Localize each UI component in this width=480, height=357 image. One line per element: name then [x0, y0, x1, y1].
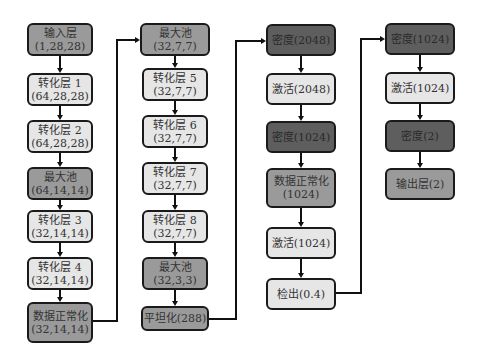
node-conv-5: 转化层 5 (32,7,7) [142, 68, 208, 101]
node-shape: (64,28,28) [31, 90, 89, 103]
node-shape: (32,7,7) [153, 179, 197, 192]
node-label: 转化层 4 [38, 261, 82, 274]
arrow-down-icon [298, 68, 304, 73]
edge [59, 106, 61, 115]
edge [300, 105, 302, 116]
edge [174, 101, 176, 110]
node-conv-1: 转化层 1 (64,28,28) [27, 73, 93, 106]
node-label: 转化层 8 [153, 214, 197, 227]
arrow-down-icon [417, 163, 423, 168]
arrow-down-icon [298, 116, 304, 121]
node-activation-2048: 激活(2048) [266, 73, 336, 105]
edge [419, 104, 421, 115]
arrow-down-icon [57, 252, 63, 257]
edge [360, 38, 362, 294]
arrow-down-icon [57, 205, 63, 210]
arrow-down-icon [172, 301, 178, 306]
edge [59, 153, 61, 162]
node-label: 密度(2) [401, 130, 439, 143]
node-shape: (1024) [283, 188, 320, 201]
node-shape: (32,7,7) [153, 40, 197, 53]
node-label: 转化层 2 [38, 124, 82, 137]
node-conv-3: 转化层 3 (32,14,14) [27, 210, 93, 243]
arrow-down-icon [298, 273, 304, 278]
node-label: 数据正常化 [274, 175, 329, 188]
edge [93, 320, 118, 322]
node-label: 转化层 7 [153, 166, 197, 179]
edge [300, 259, 302, 273]
node-label: 输出层(2) [396, 178, 445, 191]
edge [300, 56, 302, 68]
node-shape: (32,7,7) [153, 85, 197, 98]
node-shape: (32,7,7) [153, 227, 197, 240]
node-conv-4: 转化层 4 (32,14,14) [27, 257, 93, 290]
node-shape: (32,14,14) [31, 323, 89, 336]
node-dense-1024-b: 密度(1024) [385, 23, 455, 55]
edge [419, 55, 421, 67]
node-label: 转化层 3 [38, 214, 82, 227]
arrow-down-icon [172, 63, 178, 68]
arrow-down-icon [57, 68, 63, 73]
node-dense-1024: 密度(1024) [266, 121, 336, 153]
node-label: 数据正常化 [33, 310, 88, 323]
arrow-down-icon [298, 222, 304, 227]
node-activation-1024-b: 激活(1024) [385, 72, 455, 104]
edge [300, 208, 302, 222]
node-dropout: 检出(0.4) [266, 278, 336, 310]
edge [59, 290, 61, 297]
node-shape: (32,14,14) [31, 227, 89, 240]
arrow-down-icon [172, 110, 178, 115]
node-shape: (32,3,3) [153, 274, 197, 287]
edge [300, 153, 302, 163]
node-shape: (32,7,7) [153, 132, 197, 145]
node-label: 密度(2048) [272, 34, 331, 47]
edge [209, 318, 237, 320]
node-label: 激活(2048) [272, 83, 331, 96]
node-conv-8: 转化层 8 (32,7,7) [142, 210, 208, 243]
node-maxpool-2: 最大池 (32,7,7) [140, 23, 210, 56]
arrow-down-icon [172, 252, 178, 257]
node-label: 转化层 1 [38, 77, 82, 90]
node-label: 最大池 [159, 261, 192, 274]
edge [419, 152, 421, 163]
node-label: 输入层 [44, 27, 77, 40]
arrow-down-icon [57, 162, 63, 167]
node-dense-2: 密度(2) [385, 120, 455, 152]
node-label: 最大池 [159, 27, 192, 40]
node-input-layer: 输入层 (1,28,28) [27, 23, 93, 56]
arrow-down-icon [172, 205, 178, 210]
node-label: 密度(1024) [391, 33, 450, 46]
node-label: 激活(1024) [272, 237, 331, 250]
edge [235, 40, 261, 42]
node-conv-7: 转化层 7 (32,7,7) [142, 162, 208, 195]
edge [174, 195, 176, 205]
edge [174, 243, 176, 252]
node-conv-2: 转化层 2 (64,28,28) [27, 120, 93, 153]
node-label: 激活(1024) [391, 82, 450, 95]
edge [336, 292, 362, 294]
arrow-down-icon [417, 115, 423, 120]
edge [116, 39, 118, 322]
edge [235, 40, 237, 320]
edge [174, 290, 176, 301]
node-label: 转化层 6 [153, 119, 197, 132]
edge [360, 38, 380, 40]
node-shape: (64,28,28) [31, 137, 89, 150]
arrow-down-icon [298, 163, 304, 168]
edge [174, 56, 176, 63]
arrow-down-icon [172, 157, 178, 162]
node-shape: (64,14,14) [31, 184, 89, 197]
edge [59, 243, 61, 252]
node-maxpool-3: 最大池 (32,3,3) [142, 257, 208, 290]
node-batchnorm-2: 数据正常化 (1024) [266, 168, 336, 208]
node-maxpool-1: 最大池 (64,14,14) [27, 167, 93, 200]
node-activation-1024: 激活(1024) [266, 227, 336, 259]
node-output-layer: 输出层(2) [385, 168, 455, 200]
node-label: 转化层 5 [153, 72, 197, 85]
node-label: 平坦化(288) [144, 312, 207, 325]
edge [59, 56, 61, 68]
edge [174, 148, 176, 157]
node-dense-2048: 密度(2048) [266, 24, 336, 56]
node-shape: (1,28,28) [35, 40, 86, 53]
arrow-down-icon [417, 67, 423, 72]
